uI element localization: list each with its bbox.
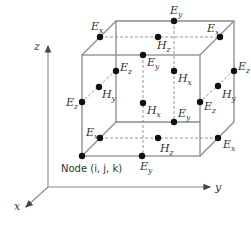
- ez-front-left-label: Ez: [65, 96, 78, 111]
- ey-top-back-label: Ey: [169, 4, 183, 19]
- diagram-canvas: z y x: [0, 0, 251, 226]
- hz-bottom-label: Hz: [159, 142, 174, 157]
- ez-front-right-label: Ez: [203, 100, 216, 115]
- hz-bottom-dot: [155, 135, 161, 141]
- ey-bottom-back-dot: [171, 119, 177, 125]
- ey-top-front-label: Ey: [146, 56, 160, 71]
- hx-back-label: Hx: [177, 72, 193, 87]
- ex-top-right-label: Ex: [206, 22, 220, 37]
- y-axis-label: y: [214, 181, 222, 194]
- ez-front-left-dot: [79, 99, 85, 105]
- ez-back-left-dot: [113, 68, 119, 74]
- ey-bottom-front-dot: [139, 153, 145, 159]
- x-axis: [26, 187, 48, 207]
- hx-front-label: Hx: [146, 104, 162, 119]
- ey-top-back-dot: [171, 18, 177, 24]
- ex-bottom-left-label: Ex: [85, 126, 99, 141]
- node-label: Node (i, j, k): [61, 163, 122, 174]
- ey-top-front-dot: [140, 52, 146, 58]
- ez-back-left-label: Ez: [119, 61, 132, 76]
- yee-cell-diagram: z y x: [0, 0, 251, 226]
- hx-back-dot: [171, 68, 177, 74]
- hy-left-label: Hy: [101, 88, 117, 103]
- ez-back-right-dot: [231, 68, 237, 74]
- z-axis-label: z: [33, 40, 40, 53]
- ex-bottom-right-label: Ex: [222, 138, 236, 153]
- ey-bottom-back-label: Ey: [177, 107, 191, 122]
- ez-back-right-label: Ez: [237, 60, 250, 75]
- node-dot: [79, 153, 85, 159]
- ez-front-right-dot: [197, 99, 203, 105]
- x-axis-label: x: [14, 200, 21, 213]
- ex-top-left-label: Ex: [90, 20, 104, 35]
- hy-right-dot: [215, 83, 221, 89]
- hz-top-label: Hz: [156, 39, 171, 54]
- field-labels: Ex Ey Ex Hz Ey Ez Hy Ez Hx Hx Ez Hy Ez E…: [65, 4, 250, 175]
- hx-front-dot: [140, 100, 146, 106]
- ex-bottom-right-dot: [215, 135, 221, 141]
- ey-bottom-front-label: Ey: [139, 160, 153, 175]
